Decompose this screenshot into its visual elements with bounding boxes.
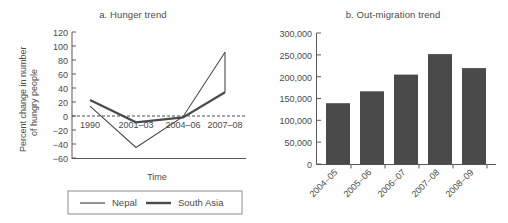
x-tick-label: 2007–08 [410,167,442,199]
bar-2005-06 [360,91,384,164]
x-axis-title: Time [147,172,167,182]
y-tick-label: −60 [53,154,68,164]
legend-label-nepal: Nepal [112,197,137,208]
y-axis-ticks [72,32,76,158]
out-migration-trend-svg: 300,000 250,000 200,000 150,000 100,000 … [254,0,508,223]
bar-2006-07 [394,75,418,165]
panel-b-title: b. Out-migration trend [266,9,508,20]
y-axis-title-line2: of hungry people [29,69,39,136]
series-line-south-asia [90,92,225,122]
figure-container: a. Hunger trend Percent change in number… [0,0,508,223]
y-tick-label: 0 [307,160,312,170]
y-tick-label: 60 [58,70,68,80]
y-tick-label: 120 [53,28,68,38]
x-tick-label: 2005–06 [342,167,374,199]
y-tick-label: 100,000 [279,116,312,126]
series-line-nepal [90,52,225,147]
panel-hunger-trend: a. Hunger trend Percent change in number… [0,0,254,223]
bar-2008-09 [462,68,486,164]
y-tick-label: 150,000 [279,94,312,104]
x-tick-label: 2006–07 [376,167,408,199]
panel-out-migration-trend: b. Out-migration trend 300,000 250,000 2… [254,0,508,223]
y-tick-label: 50,000 [284,138,312,148]
y-tick-label: 40 [58,84,68,94]
hunger-trend-svg: Percent change in number of hungry peopl… [0,0,254,223]
y-tick-label: 200,000 [279,73,312,83]
y-axis-title-line1: Percent change in number [18,46,28,152]
panel-a-title: a. Hunger trend [6,9,260,20]
x-tick-label: 2004–05 [308,167,340,199]
x-tick-label: 2007–08 [207,120,242,130]
y-axis-ticks [317,33,322,164]
x-tick-label: 2008–09 [444,167,476,199]
y-tick-label: 250,000 [279,51,312,61]
y-tick-label: −20 [53,126,68,136]
y-tick-label: −40 [53,140,68,150]
y-tick-label: 100 [53,42,68,52]
y-tick-label: 20 [58,98,68,108]
legend-label-south-asia: South Asia [178,197,224,208]
x-tick-label: 1990 [80,120,100,130]
y-tick-label: 80 [58,56,68,66]
y-tick-label: 0 [63,112,68,122]
bar-2007-08 [428,54,452,164]
bar-2004-05 [326,103,350,164]
y-tick-label: 300,000 [279,29,312,39]
